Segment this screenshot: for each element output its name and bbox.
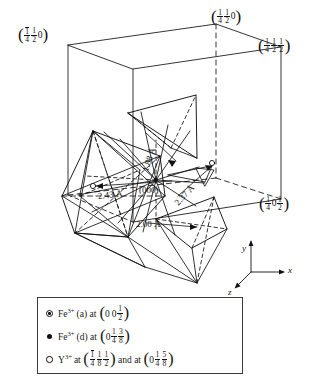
corner-label-right-lower: ( 14 0 12 ) bbox=[259, 196, 289, 212]
leader-243 bbox=[96, 181, 172, 186]
fe-d-marker-icon bbox=[44, 334, 55, 339]
origin-node bbox=[154, 178, 158, 182]
fe-a-site: (a) bbox=[77, 309, 88, 319]
y-marker-icon bbox=[44, 356, 55, 362]
legend-row-fe-a: Fe3+ (a) at ( 0 0 12 ) bbox=[44, 302, 242, 325]
legend-text-fe-d: Fe3+ (d) at ( 0 14 38 ) bbox=[58, 328, 130, 344]
lower-poly-1 bbox=[156, 197, 227, 248]
lower-tet-1 bbox=[192, 229, 227, 283]
fe-a-coords: ( 0 0 12 ) bbox=[99, 305, 129, 321]
fe-d-coords: ( 0 14 38 ) bbox=[100, 328, 130, 344]
axis-label-x: x bbox=[288, 265, 292, 275]
legend-text-fe-a: Fe3+ (a) at ( 0 0 12 ) bbox=[58, 305, 129, 321]
axis-label-z: z bbox=[228, 287, 232, 297]
lower-poly-diag-2 bbox=[192, 197, 214, 248]
y-at: at bbox=[74, 355, 81, 365]
crystal-structure-figure: ( 14 12 0 ) ( 14 12 0 ) ( 14 12 12 ) ( 1… bbox=[0, 0, 310, 391]
arrowhead-188 bbox=[168, 160, 176, 167]
cell-top-face bbox=[68, 24, 281, 69]
distance-label-2-00: 2.00 Å bbox=[136, 219, 161, 229]
y-coords-2: ( 0 14 58 ) bbox=[144, 351, 174, 367]
fe-d-site: (d) bbox=[77, 332, 88, 342]
atom-site-y-2 bbox=[209, 160, 214, 165]
legend-text-y: Y3+ at ( 14 18 12 ) and at ( 0 14 58 ) bbox=[58, 351, 174, 368]
ll-edge-2 bbox=[145, 267, 197, 283]
axis-y-arrow bbox=[249, 240, 254, 246]
corner-label-right-upper: ( 14 12 12 ) bbox=[258, 38, 290, 54]
axis-x-arrow bbox=[279, 270, 285, 275]
fe-d-charge: 3+ bbox=[68, 330, 75, 337]
y-and-at: and at bbox=[118, 355, 141, 365]
legend-box: Fe3+ (a) at ( 0 0 12 ) Fe3+ (d) at bbox=[37, 297, 243, 374]
ll-tet-edge bbox=[75, 233, 145, 267]
arrowhead-243 bbox=[96, 183, 103, 189]
fe-a-at: at bbox=[90, 309, 97, 319]
fe-d-species: Fe bbox=[58, 332, 68, 342]
legend-row-fe-d: Fe3+ (d) at ( 0 14 38 ) bbox=[44, 325, 242, 348]
y-charge: 3+ bbox=[65, 353, 72, 360]
lower-left-tetrahedron bbox=[75, 233, 197, 283]
y-coords-1: ( 14 18 12 ) bbox=[83, 351, 115, 368]
atom-site-y-1 bbox=[90, 183, 95, 188]
tet-upper-hidden-2 bbox=[128, 113, 171, 148]
left-poly-edge-2 bbox=[62, 196, 128, 237]
central-bond-hub bbox=[78, 112, 205, 235]
legend-row-y: Y3+ at ( 14 18 12 ) and at ( 0 14 58 ) bbox=[44, 348, 242, 371]
fe-a-charge: 3+ bbox=[68, 307, 75, 314]
corner-label-top-right: ( 14 12 0 ) bbox=[211, 9, 241, 25]
lower-tet-hidden bbox=[197, 197, 214, 283]
fe-a-species: Fe bbox=[58, 309, 68, 319]
corner-label-top-left: ( 14 12 0 ) bbox=[18, 27, 48, 44]
fe-a-marker-icon bbox=[44, 310, 55, 317]
y-species: Y bbox=[58, 355, 65, 365]
axis-label-y: y bbox=[242, 243, 246, 253]
fe-d-at: at bbox=[90, 332, 97, 342]
origin-label: (000) bbox=[139, 186, 159, 195]
